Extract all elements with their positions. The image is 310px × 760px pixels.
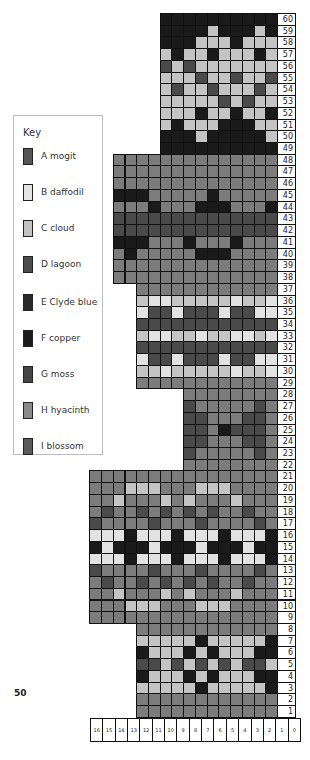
legend-item-b: B daffodil xyxy=(23,184,103,202)
stitch-number-label: 8 xyxy=(190,719,202,741)
stitch-number-label: 10 xyxy=(165,719,177,741)
stitch-number-label: 11 xyxy=(153,719,165,741)
color-swatch-icon xyxy=(23,294,33,311)
legend-title: Key xyxy=(23,127,41,138)
legend-label: D lagoon xyxy=(41,259,81,269)
stitch-number-label: 9 xyxy=(177,719,189,741)
stitch-number-label: 7 xyxy=(202,719,214,741)
color-swatch-icon xyxy=(23,366,33,383)
color-swatch-icon xyxy=(23,220,33,237)
stitch-number-label: 6 xyxy=(215,719,227,741)
legend-label: H hyacinth xyxy=(41,405,90,415)
color-swatch-icon xyxy=(23,402,33,419)
legend-item-i: I blossom xyxy=(23,438,103,456)
legend-item-a: A mogit xyxy=(23,148,103,166)
stitch-number-label: 1 xyxy=(276,719,288,741)
legend-item-f: F copper xyxy=(23,330,103,348)
legend-label: B daffodil xyxy=(41,187,84,197)
color-swatch-icon xyxy=(23,330,33,347)
legend-item-e: E Clyde blue xyxy=(23,294,103,312)
stitch-number-label: 2 xyxy=(264,719,276,741)
legend-item-d: D lagoon xyxy=(23,256,103,274)
legend-label: G moss xyxy=(41,369,75,379)
stitch-number-label: 14 xyxy=(116,719,128,741)
stitch-number-label: 3 xyxy=(252,719,264,741)
legend-label: E Clyde blue xyxy=(41,297,97,307)
color-swatch-icon xyxy=(23,148,33,165)
legend-item-c: C cloud xyxy=(23,220,103,238)
legend-item-h: H hyacinth xyxy=(23,402,103,420)
legend-label: I blossom xyxy=(41,441,84,451)
row-number-label: 1 xyxy=(277,705,296,718)
stitch-number-label: 15 xyxy=(103,719,115,741)
stitch-number-label: 12 xyxy=(140,719,152,741)
stitch-number-row: 161514131211109876543210 xyxy=(90,718,301,742)
page-number: 50 xyxy=(14,688,27,698)
legend-label: A mogit xyxy=(41,151,76,161)
stitch-number-label: 0 xyxy=(289,719,301,741)
stitch-number-label: 4 xyxy=(239,719,251,741)
legend-item-g: G moss xyxy=(23,366,103,384)
stitch-number-label: 5 xyxy=(227,719,239,741)
color-key-legend: Key A mogitB daffodilC cloudD lagoonE Cl… xyxy=(13,115,103,455)
stitch-number-label: 13 xyxy=(128,719,140,741)
legend-label: C cloud xyxy=(41,223,75,233)
color-swatch-icon xyxy=(23,438,33,455)
color-swatch-icon xyxy=(23,184,33,201)
color-swatch-icon xyxy=(23,256,33,273)
legend-label: F copper xyxy=(41,333,80,343)
stitch-number-label: 16 xyxy=(91,719,103,741)
